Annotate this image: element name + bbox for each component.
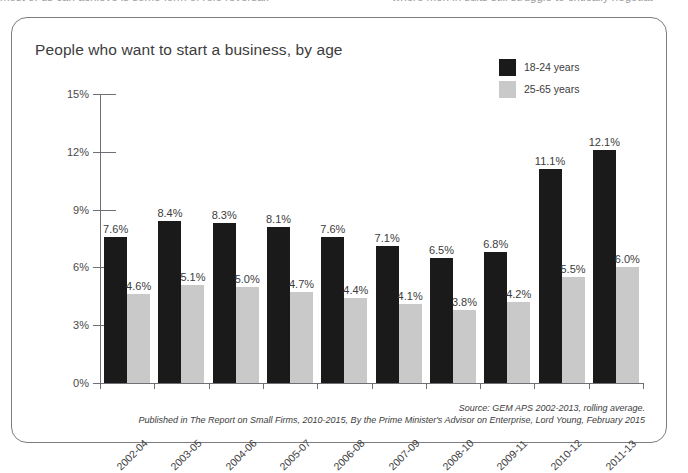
x-axis-category-label: 2009-11	[494, 437, 529, 472]
x-axis-category-label: 2005-07	[277, 437, 313, 473]
bar-value-label: 8.1%	[266, 213, 291, 225]
y-axis-label: 0%	[73, 377, 89, 389]
chart-plot-area: 0%3%6%9%12%15%7.6%4.6%2002-048.4%5.1%200…	[100, 94, 643, 383]
bar-group: 7.6%4.4%	[317, 94, 371, 383]
chart-bar[interactable]: 4.6%	[127, 294, 150, 383]
x-axis-category-label: 2002-04	[114, 437, 150, 473]
chart-bar[interactable]: 7.6%	[104, 237, 127, 383]
bar-group: 8.4%5.1%	[154, 94, 208, 383]
chart-bar[interactable]: 5.1%	[181, 285, 204, 383]
legend-swatch-18-24	[499, 59, 516, 76]
x-axis-category-label: 2003-05	[168, 437, 204, 473]
y-axis-tick	[93, 383, 100, 384]
chart-bar[interactable]: 11.1%	[539, 169, 562, 383]
bar-value-label: 6.5%	[429, 244, 454, 256]
top-cut-text-left: most of us can achieve is some form of r…	[0, 0, 269, 3]
chart-bar[interactable]: 12.1%	[593, 150, 616, 383]
chart-bar[interactable]: 6.5%	[430, 258, 453, 383]
x-axis-category-label: 2007-09	[386, 437, 422, 473]
chart-bar[interactable]: 7.1%	[376, 246, 399, 383]
y-axis-tick	[93, 267, 100, 268]
chart-bar[interactable]: 7.6%	[321, 237, 344, 383]
x-axis-tick	[263, 383, 264, 389]
x-axis-category-label: 2011-13	[603, 437, 638, 472]
x-axis-tick	[154, 383, 155, 389]
x-axis-tick	[480, 383, 481, 389]
bar-group: 8.1%4.7%	[263, 94, 317, 383]
y-axis-tick	[93, 210, 100, 211]
bar-group: 6.8%4.2%	[480, 94, 534, 383]
bar-value-label: 4.1%	[398, 290, 423, 302]
y-axis-tick	[93, 152, 100, 153]
top-cut-text-right: where men in suits still struggle to cri…	[392, 0, 653, 3]
x-axis-category-label: 2008-10	[440, 437, 476, 473]
bar-value-label: 11.1%	[535, 155, 565, 167]
x-axis-category-label: 2010-12	[548, 437, 584, 473]
x-axis-category-label: 2004-06	[223, 437, 259, 473]
chart-bar[interactable]: 6.8%	[484, 252, 507, 383]
y-axis-label: 15%	[67, 88, 89, 100]
bar-value-label: 5.0%	[235, 273, 260, 285]
footer-published-line: Published in The Report on Small Firms, …	[139, 414, 645, 426]
bar-value-label: 8.4%	[157, 207, 182, 219]
bar-group: 7.1%4.1%	[372, 94, 426, 383]
chart-bar[interactable]: 6.0%	[616, 267, 639, 383]
y-axis-label: 9%	[73, 204, 89, 216]
bar-value-label: 6.8%	[483, 238, 508, 250]
y-axis-tick	[93, 325, 100, 326]
legend-label-18-24: 18-24 years	[524, 61, 579, 73]
bar-group: 11.1%5.5%	[534, 94, 588, 383]
x-axis-category-label: 2006-08	[331, 437, 367, 473]
chart-footer: Source: GEM APS 2002-2013, rolling avera…	[139, 402, 645, 426]
y-axis-tick-inner	[101, 383, 116, 384]
x-axis-tick	[209, 383, 210, 389]
chart-bar[interactable]: 4.2%	[507, 302, 530, 383]
bar-group: 7.6%4.6%	[100, 94, 154, 383]
page-top-cut-text: most of us can achieve is some form of r…	[0, 0, 688, 13]
bar-value-label: 4.4%	[343, 284, 368, 296]
chart-bar[interactable]: 8.4%	[158, 221, 181, 383]
x-axis-tick	[534, 383, 535, 389]
chart-bar[interactable]: 5.0%	[236, 287, 259, 383]
chart-title: People who want to start a business, by …	[35, 41, 343, 59]
bar-value-label: 5.1%	[180, 271, 205, 283]
bar-group: 6.5%3.8%	[426, 94, 480, 383]
x-axis-tick	[643, 383, 644, 389]
y-axis-label: 12%	[67, 146, 89, 158]
chart-card: People who want to start a business, by …	[11, 17, 667, 443]
bar-group: 8.3%5.0%	[209, 94, 263, 383]
legend-item-18-24: 18-24 years	[499, 56, 579, 78]
bar-value-label: 6.0%	[615, 253, 640, 265]
x-axis-tick	[372, 383, 373, 389]
x-axis-tick	[426, 383, 427, 389]
y-axis-label: 6%	[73, 261, 89, 273]
chart-bar[interactable]: 3.8%	[453, 310, 476, 383]
x-axis-tick	[317, 383, 318, 389]
chart-bar[interactable]: 8.1%	[267, 227, 290, 383]
footer-source-line: Source: GEM APS 2002-2013, rolling avera…	[139, 402, 645, 414]
bar-value-label: 7.6%	[320, 223, 345, 235]
chart-bar[interactable]: 8.3%	[213, 223, 236, 383]
bar-group: 12.1%6.0%	[589, 94, 643, 383]
y-axis-label: 3%	[73, 319, 89, 331]
x-axis-tick	[589, 383, 590, 389]
bar-value-label: 3.8%	[452, 296, 477, 308]
bar-value-label: 4.7%	[289, 278, 314, 290]
bar-value-label: 4.6%	[126, 280, 151, 292]
y-axis-tick	[93, 94, 100, 95]
bar-value-label: 12.1%	[589, 136, 620, 148]
bar-value-label: 7.1%	[375, 232, 400, 244]
chart-bar[interactable]: 5.5%	[562, 277, 585, 383]
chart-bar[interactable]: 4.7%	[290, 292, 313, 383]
bar-value-label: 7.6%	[103, 223, 128, 235]
chart-bar[interactable]: 4.1%	[399, 304, 422, 383]
x-axis-tick	[100, 383, 101, 389]
bar-value-label: 4.2%	[506, 288, 531, 300]
bar-value-label: 5.5%	[560, 263, 585, 275]
chart-bar[interactable]: 4.4%	[344, 298, 367, 383]
bar-value-label: 8.3%	[212, 209, 237, 221]
